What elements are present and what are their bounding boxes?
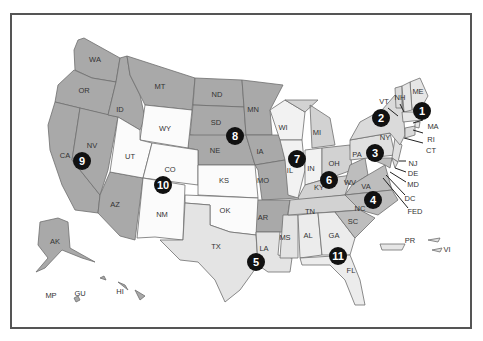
label-wa: WA: [89, 55, 101, 64]
label-ny: NY: [380, 133, 390, 142]
label-nd: ND: [212, 90, 223, 99]
label-mt: MT: [155, 82, 166, 91]
marker-circuit-3[interactable]: 3: [366, 144, 384, 162]
label-de: DE: [408, 169, 418, 178]
svg-text:9: 9: [79, 155, 85, 167]
label-oh: OH: [328, 159, 339, 168]
label-sd: SD: [211, 118, 222, 127]
marker-circuit-5[interactable]: 5: [247, 253, 265, 271]
label-md: MD: [407, 180, 419, 189]
state-vi[interactable]: [428, 238, 442, 252]
state-co[interactable]: [143, 143, 198, 185]
label-nh: NH: [395, 93, 406, 102]
label-mo: MO: [257, 176, 269, 185]
label-ia: IA: [256, 147, 263, 156]
label-ri: RI: [427, 135, 435, 144]
label-ma: MA: [427, 122, 438, 131]
label-wy: WY: [159, 124, 171, 133]
label-al: AL: [303, 231, 312, 240]
label-wv: WV: [344, 178, 356, 187]
state-pr[interactable]: [380, 244, 405, 250]
label-az: AZ: [110, 200, 120, 209]
label-il: IL: [287, 166, 293, 175]
label-mn: MN: [247, 105, 259, 114]
label-ok: OK: [220, 206, 231, 215]
label-in: IN: [307, 164, 315, 173]
label-ms: MS: [279, 233, 290, 242]
label-me: ME: [412, 87, 423, 96]
marker-circuit-7[interactable]: 7: [288, 150, 306, 168]
svg-text:8: 8: [232, 130, 238, 142]
state-ct[interactable]: [405, 126, 415, 138]
svg-text:2: 2: [378, 112, 384, 124]
label-or: OR: [78, 86, 90, 95]
label-ct: CT: [426, 146, 436, 155]
svg-text:11: 11: [332, 250, 344, 262]
label-fl: FL: [347, 266, 356, 275]
label-ar: AR: [258, 213, 269, 222]
label-ga: GA: [329, 231, 340, 240]
state-az[interactable]: [98, 172, 143, 240]
label-vi: VI: [443, 245, 450, 254]
label-tx: TX: [211, 242, 221, 251]
label-dc: DC: [405, 194, 416, 203]
label-nv: NV: [87, 141, 97, 150]
label-ut: UT: [125, 152, 135, 161]
marker-circuit-11[interactable]: 11: [329, 247, 347, 265]
state-ri[interactable]: [415, 122, 420, 128]
label-mp: MP: [45, 291, 56, 300]
label-tn: TN: [305, 207, 315, 216]
label-pr: PR: [405, 236, 416, 245]
svg-text:6: 6: [326, 174, 332, 186]
label-sc: SC: [348, 217, 359, 226]
label-wi: WI: [278, 123, 287, 132]
us-circuit-map: WA OR CA NV ID MT AZ UT WY CO NM ND SD N…: [0, 0, 483, 341]
marker-circuit-9[interactable]: 9: [73, 152, 91, 170]
marker-circuit-6[interactable]: 6: [320, 171, 338, 189]
label-vt: VT: [379, 97, 389, 106]
label-ak: AK: [50, 237, 60, 246]
svg-text:5: 5: [253, 256, 259, 268]
svg-text:10: 10: [157, 179, 169, 191]
svg-text:3: 3: [372, 147, 378, 159]
marker-circuit-10[interactable]: 10: [154, 176, 172, 194]
label-ks: KS: [219, 176, 229, 185]
marker-circuit-1[interactable]: 1: [413, 102, 431, 120]
label-pa: PA: [352, 150, 361, 159]
label-va: VA: [361, 182, 370, 191]
state-ak[interactable]: [36, 218, 95, 272]
svg-text:7: 7: [294, 153, 300, 165]
label-nc: NC: [355, 204, 366, 213]
label-id: ID: [116, 105, 124, 114]
label-ca: CA: [60, 151, 70, 160]
svg-text:4: 4: [370, 194, 377, 206]
label-mi: MI: [313, 128, 321, 137]
marker-circuit-2[interactable]: 2: [372, 109, 390, 127]
label-nj: NJ: [408, 159, 417, 168]
label-hi: HI: [116, 287, 124, 296]
marker-circuit-4[interactable]: 4: [364, 191, 382, 209]
marker-circuit-8[interactable]: 8: [226, 127, 244, 145]
svg-text:1: 1: [419, 105, 425, 117]
label-nm: NM: [156, 210, 168, 219]
label-gu: GU: [74, 289, 85, 298]
label-fed: FED: [408, 207, 424, 216]
label-ne: NE: [210, 146, 220, 155]
label-co: CO: [164, 165, 175, 174]
label-la: LA: [259, 244, 268, 253]
